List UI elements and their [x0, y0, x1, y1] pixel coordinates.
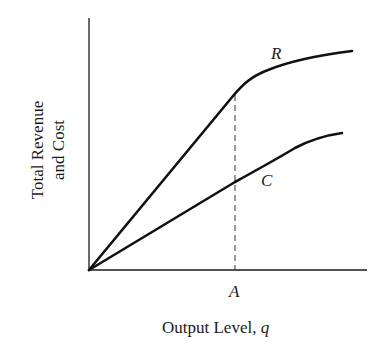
curve-label-C: C	[261, 171, 273, 190]
curve-label-R: R	[270, 44, 282, 63]
cost-curve-C	[89, 133, 342, 270]
y-axis-title-line2: and Cost	[49, 120, 68, 180]
x-tick-label-A: A	[228, 282, 240, 301]
y-axis-title: Total Revenue and Cost	[28, 101, 68, 199]
revenue-curve-R	[89, 51, 352, 270]
x-axis-title-text: Output Level,	[162, 318, 261, 337]
revenue-cost-chart: R C A Output Level, q Total Revenue and …	[0, 0, 378, 360]
x-axis-title: Output Level, q	[162, 318, 270, 337]
y-axis-title-line1: Total Revenue	[28, 101, 47, 199]
x-axis-variable: q	[261, 318, 270, 337]
